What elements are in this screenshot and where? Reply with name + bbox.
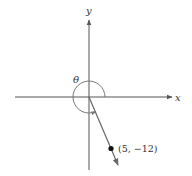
angle-diagram: x y θ (5, −12): [0, 0, 192, 176]
point-label: (5, −12): [118, 143, 158, 154]
angle-label: θ: [73, 74, 79, 85]
point-marker: [108, 146, 113, 151]
x-axis-label: x: [175, 92, 181, 103]
terminal-ray: [89, 97, 118, 165]
y-axis-label: y: [85, 5, 92, 16]
